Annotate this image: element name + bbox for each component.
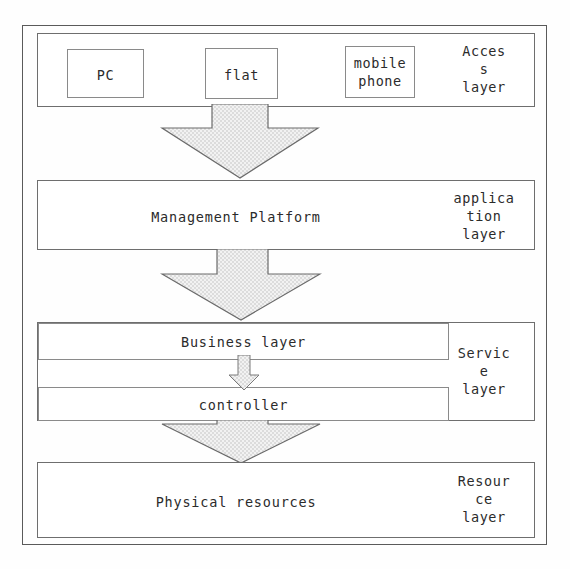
application-layer-main-label: Management Platform <box>38 209 434 225</box>
access-layer-side-label: Acces s layer <box>436 42 532 97</box>
device-label-pc: PC <box>68 66 143 84</box>
access-layer-side-label-line3: layer <box>436 78 532 96</box>
resource-layer-side-label-line3: layer <box>436 508 532 526</box>
resource-layer-box: Physical resources Resour ce layer <box>37 462 535 538</box>
device-label-mobile-phone-line1: mobile <box>346 54 414 72</box>
controller-label: controller <box>39 397 448 413</box>
arrow-access-to-application <box>160 104 320 180</box>
application-layer-side-label: applica tion layer <box>436 189 532 244</box>
arrow-application-to-service <box>160 249 322 322</box>
device-label-flat: flat <box>206 66 277 84</box>
resource-layer-side-label-line2: ce <box>436 490 532 508</box>
device-label-mobile-phone-line2: phone <box>346 72 414 90</box>
service-layer-box: Business layer controller Servic e layer <box>37 322 535 421</box>
device-box-pc: PC <box>67 49 144 98</box>
business-layer-label: Business layer <box>39 334 448 350</box>
device-box-mobile-phone: mobile phone <box>345 46 415 98</box>
application-layer-side-label-line1: applica <box>436 189 532 207</box>
application-layer-side-label-line3: layer <box>436 225 532 243</box>
service-layer-side-label-line1: Servic <box>436 344 532 362</box>
resource-layer-side-label: Resour ce layer <box>436 472 532 527</box>
resource-layer-side-label-line1: Resour <box>436 472 532 490</box>
device-box-flat: flat <box>205 48 278 99</box>
application-layer-side-label-line2: tion <box>436 207 532 225</box>
service-layer-side-label-line3: layer <box>436 380 532 398</box>
service-layer-side-label: Servic e layer <box>436 344 532 399</box>
arrow-service-to-resource <box>160 420 322 465</box>
resource-layer-main-label: Physical resources <box>38 494 434 510</box>
arrow-business-to-controller <box>226 355 262 391</box>
service-layer-side-label-line2: e <box>436 362 532 380</box>
access-layer-side-label-line1: Acces <box>436 42 532 60</box>
diagram-canvas: PC flat mobile phone Acces s layer <box>0 0 570 569</box>
access-layer-side-label-line2: s <box>436 60 532 78</box>
access-layer-box: PC flat mobile phone Acces s layer <box>37 33 535 107</box>
service-sub-box-controller: controller <box>38 387 449 421</box>
application-layer-box: Management Platform applica tion layer <box>37 180 535 250</box>
